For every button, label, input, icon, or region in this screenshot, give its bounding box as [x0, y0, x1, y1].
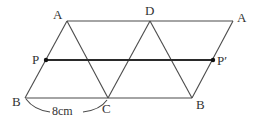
- label-D: D: [145, 3, 154, 18]
- label-BC-length: 8cm: [52, 104, 73, 118]
- label-P-prime: P′: [217, 53, 227, 68]
- label-P: P: [32, 52, 39, 67]
- label-A-left: A: [53, 7, 63, 22]
- label-C: C: [102, 101, 111, 116]
- measure-arc-left: [26, 99, 50, 112]
- label-B-left: B: [12, 94, 21, 109]
- point-P: [44, 58, 48, 62]
- point-P-prime: [211, 58, 215, 62]
- label-B-right: B: [196, 97, 205, 112]
- geometry-diagram: A D A P P′ B C B 8cm: [0, 0, 257, 119]
- label-A-right: A: [237, 10, 247, 25]
